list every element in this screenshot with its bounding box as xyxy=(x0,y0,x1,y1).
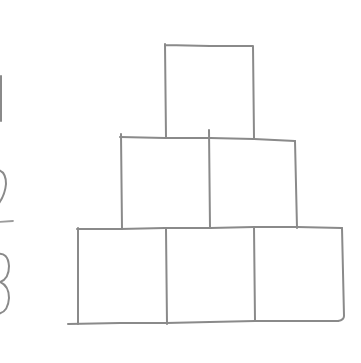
row-3-top-edge xyxy=(77,227,342,229)
row-2-top-edge xyxy=(120,137,295,141)
numeral-2 xyxy=(0,170,6,206)
block-row1-1 xyxy=(165,44,254,138)
pyramid-sketch xyxy=(0,0,361,363)
block-row2-divider xyxy=(209,130,210,228)
block-row2-2-right xyxy=(295,141,297,228)
row-3-blocks xyxy=(68,227,344,324)
block-row3-divider-1 xyxy=(166,229,167,324)
base-line xyxy=(68,321,338,324)
block-row3-3-right xyxy=(338,228,344,321)
row-2-underline xyxy=(0,221,13,222)
pyramid-diagram: 1 2 3 xyxy=(0,0,361,363)
row-2-blocks xyxy=(120,130,297,229)
numeral-3 xyxy=(0,254,9,314)
row-1-blocks xyxy=(165,44,254,138)
block-row2-1-left xyxy=(121,134,122,229)
block-row3-divider-2 xyxy=(254,227,255,321)
row-labels xyxy=(0,76,13,314)
